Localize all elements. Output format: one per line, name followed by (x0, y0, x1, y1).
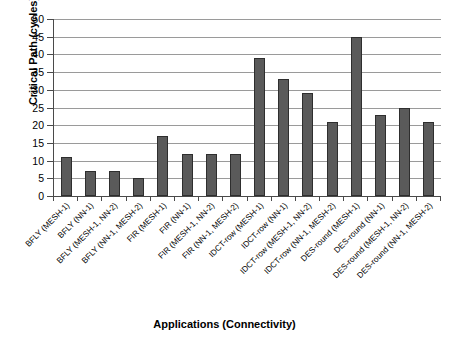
x-axis-category-labels: BFLY (MESH-1)BFLY (NN-1)BFLY (MESH-1, NN… (53, 201, 440, 311)
y-axis-tick-label: 45 (32, 31, 44, 43)
y-axis-tick-label: 40 (32, 48, 44, 60)
bar[interactable] (61, 157, 72, 196)
y-axis-tick-label: 15 (32, 137, 44, 149)
y-axis-tick-label: 35 (32, 66, 44, 78)
y-axis-tick-label: 10 (32, 155, 44, 167)
y-axis-tick-label: 25 (32, 102, 44, 114)
y-axis-tick-label: 20 (32, 119, 44, 131)
bar-chart: Critical Path (cycles) 05101520253035404… (0, 0, 449, 343)
y-axis-tick-label: 0 (38, 190, 44, 202)
y-axis-tick-label: 50 (32, 13, 44, 25)
x-axis-title: Applications (Connectivity) (0, 318, 449, 330)
y-axis-tick-label: 30 (32, 84, 44, 96)
y-axis-tick-label: 5 (38, 172, 44, 184)
bar-slot (54, 19, 78, 196)
